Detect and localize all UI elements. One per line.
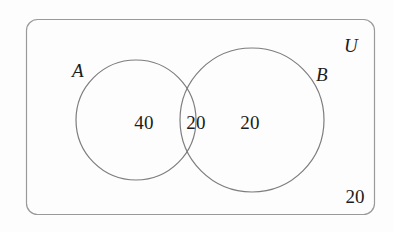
count-b-only: 20 <box>240 113 259 132</box>
count-intersection: 20 <box>186 113 205 132</box>
set-a-label: A <box>72 61 84 80</box>
count-a-only: 40 <box>134 113 153 132</box>
universal-set-label: U <box>344 36 358 55</box>
venn-diagram-figure: A B U 40 20 20 20 <box>0 0 394 232</box>
count-outside: 20 <box>346 187 365 206</box>
set-b-label: B <box>316 65 328 84</box>
